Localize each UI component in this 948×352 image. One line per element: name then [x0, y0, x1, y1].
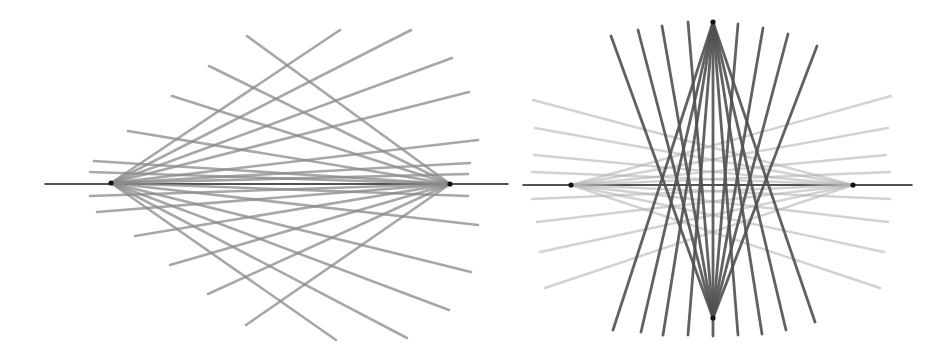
right-panel-top-vertex: [710, 19, 715, 24]
right-panel-bottom-vertex: [710, 315, 715, 320]
left-panel-right-focus: [447, 181, 452, 186]
geometric-ray-figure: [0, 0, 948, 352]
left-panel-left-focus: [108, 180, 113, 185]
figure-root: [0, 0, 948, 352]
right-panel-left-focus: [568, 182, 573, 187]
right-panel-right-focus: [850, 182, 855, 187]
